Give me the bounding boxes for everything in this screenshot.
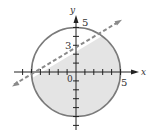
y-value-5-label: 5 (82, 17, 88, 28)
y-axis-arrow-icon (74, 15, 79, 23)
x-value-5-label: 5 (121, 77, 127, 88)
y-axis-label: y (69, 5, 76, 15)
x-axis-label: x (141, 67, 146, 77)
dashed-line-arrow-left-icon (12, 81, 20, 87)
x-axis-arrow-icon (131, 70, 139, 75)
graph-diagram: y x 5 5 3 0 (0, 0, 151, 135)
line-intercept-3-label: 3 (65, 40, 71, 51)
origin-label: 0 (67, 74, 73, 84)
